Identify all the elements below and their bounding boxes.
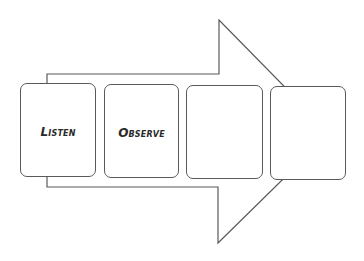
step-box-3 bbox=[186, 85, 263, 179]
step-box-1: Listen bbox=[20, 83, 96, 177]
step-label-listen: Listen bbox=[40, 125, 75, 139]
step-box-4 bbox=[270, 86, 346, 180]
step-label-observe: Observe bbox=[118, 126, 165, 140]
process-diagram: Listen Observe bbox=[0, 0, 364, 261]
step-box-2: Observe bbox=[104, 84, 179, 178]
